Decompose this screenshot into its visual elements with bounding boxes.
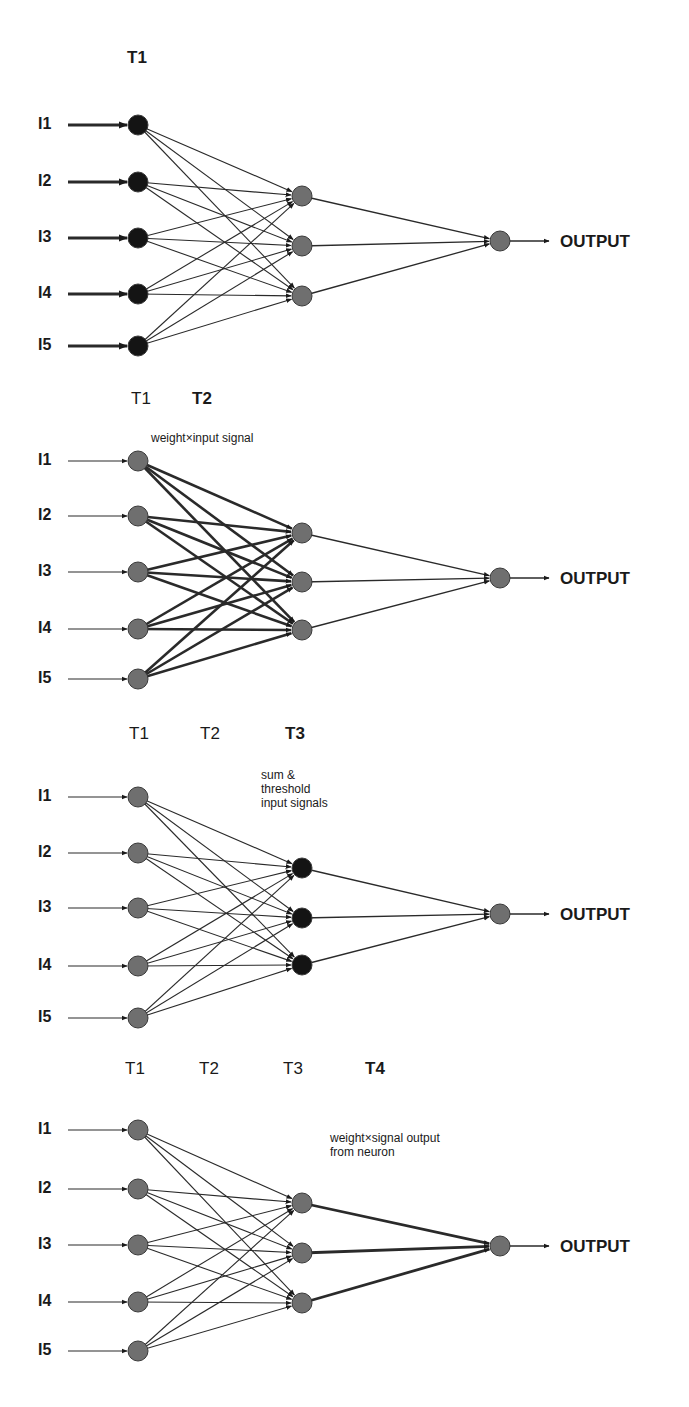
input-hidden-edge <box>138 1245 292 1299</box>
input-label-i4: I4 <box>38 956 51 974</box>
hidden-output-edge <box>302 917 489 965</box>
input-neuron-3 <box>128 562 148 582</box>
output-label: OUTPUT <box>560 232 630 252</box>
input-label-i2: I2 <box>38 172 51 190</box>
hidden-neuron-3 <box>292 955 312 975</box>
hidden-output-edge <box>302 533 489 576</box>
hidden-output-edge <box>302 868 489 912</box>
input-hidden-edge <box>138 202 293 294</box>
input-hidden-edge <box>138 924 293 1018</box>
hidden-output-edge <box>302 914 489 918</box>
input-neuron-5 <box>128 1008 148 1028</box>
input-neuron-3 <box>128 1235 148 1255</box>
neural-network-figure: T1I1I2I3I4I5OUTPUTT1T2weight×input signa… <box>0 0 689 1407</box>
time-step-label-t3: T3 <box>283 1059 303 1079</box>
annotation-note: weight×signal outputfrom neuron <box>330 1131 440 1159</box>
input-neuron-2 <box>128 506 148 526</box>
input-label-i4: I4 <box>38 619 51 637</box>
input-label-i4: I4 <box>38 1292 51 1310</box>
hidden-neuron-2 <box>292 1243 312 1263</box>
time-step-label-t4: T4 <box>365 1059 385 1079</box>
input-hidden-edge <box>138 1130 294 1295</box>
hidden-neuron-1 <box>292 1193 312 1213</box>
input-neuron-5 <box>128 336 148 356</box>
input-label-i5: I5 <box>38 1341 51 1359</box>
annotation-line: from neuron <box>330 1145 440 1159</box>
hidden-output-edge <box>302 244 489 296</box>
input-hidden-edge <box>138 921 291 966</box>
time-step-label-t1: T1 <box>131 389 151 409</box>
hidden-output-edge <box>302 241 489 246</box>
hidden-neuron-1 <box>292 858 312 878</box>
input-neuron-5 <box>128 1341 148 1361</box>
input-hidden-edge <box>138 249 291 294</box>
time-step-label-t2: T2 <box>199 1059 219 1079</box>
input-hidden-edge <box>138 182 293 290</box>
annotation-line: input signals <box>261 796 328 810</box>
input-hidden-edge <box>138 797 294 957</box>
hidden-output-edge <box>302 1246 489 1253</box>
time-step-label-t3: T3 <box>285 724 305 744</box>
input-hidden-edge <box>138 238 291 245</box>
input-label-i4: I4 <box>38 284 51 302</box>
input-hidden-edge <box>138 633 291 679</box>
input-hidden-edge <box>138 540 294 679</box>
input-hidden-edge <box>138 965 291 966</box>
hidden-neuron-1 <box>292 523 312 543</box>
network-diagram-svg <box>0 0 689 1407</box>
input-neuron-2 <box>128 1179 148 1199</box>
output-label: OUTPUT <box>560 905 630 925</box>
annotation-line: weight×signal output <box>330 1131 440 1145</box>
input-neuron-1 <box>128 787 148 807</box>
nodes-layer <box>128 115 510 1361</box>
input-label-i2: I2 <box>38 506 51 524</box>
hidden-output-edge <box>302 1203 489 1244</box>
hidden-output-edge <box>302 578 489 582</box>
annotation-note: weight×input signal <box>151 431 253 445</box>
input-label-i1: I1 <box>38 451 51 469</box>
input-hidden-edge <box>138 1245 291 1252</box>
input-neuron-2 <box>128 172 148 192</box>
input-hidden-edge <box>138 853 292 914</box>
input-label-i1: I1 <box>38 115 51 133</box>
hidden-neuron-2 <box>292 908 312 928</box>
annotation-line: sum & <box>261 768 328 782</box>
input-label-i1: I1 <box>38 787 51 805</box>
hidden-output-edge <box>302 581 489 630</box>
input-label-i3: I3 <box>38 562 51 580</box>
output-neuron <box>490 231 510 251</box>
input-label-i3: I3 <box>38 228 51 246</box>
input-hidden-edge <box>138 125 294 288</box>
hidden-neuron-2 <box>292 572 312 592</box>
input-label-i1: I1 <box>38 1120 51 1138</box>
input-hidden-edge <box>138 299 291 346</box>
input-hidden-edge <box>138 1302 291 1303</box>
input-neuron-1 <box>128 1120 148 1140</box>
input-hidden-edge <box>138 294 291 296</box>
input-neuron-2 <box>128 843 148 863</box>
annotation-note: sum &thresholdinput signals <box>261 768 328 810</box>
hidden-neuron-3 <box>292 1293 312 1313</box>
input-hidden-edge <box>138 1189 291 1202</box>
input-hidden-edge <box>138 629 291 630</box>
input-neuron-1 <box>128 115 148 135</box>
output-neuron <box>490 1236 510 1256</box>
output-label: OUTPUT <box>560 569 630 589</box>
annotation-line: threshold <box>261 782 328 796</box>
input-label-i5: I5 <box>38 336 51 354</box>
time-step-label-t2: T2 <box>200 724 220 744</box>
input-label-i2: I2 <box>38 1179 51 1197</box>
input-neuron-5 <box>128 669 148 689</box>
input-hidden-edge <box>138 853 291 867</box>
hidden-neuron-1 <box>292 186 312 206</box>
input-neuron-3 <box>128 898 148 918</box>
input-hidden-edge <box>138 1209 293 1302</box>
input-hidden-edge <box>138 875 294 1018</box>
time-step-label-t1: T1 <box>127 48 147 68</box>
input-hidden-edge <box>138 539 293 629</box>
input-hidden-edge <box>138 968 292 1018</box>
input-label-i5: I5 <box>38 669 51 687</box>
input-neuron-4 <box>128 284 148 304</box>
input-neuron-4 <box>128 956 148 976</box>
input-label-i2: I2 <box>38 843 51 861</box>
